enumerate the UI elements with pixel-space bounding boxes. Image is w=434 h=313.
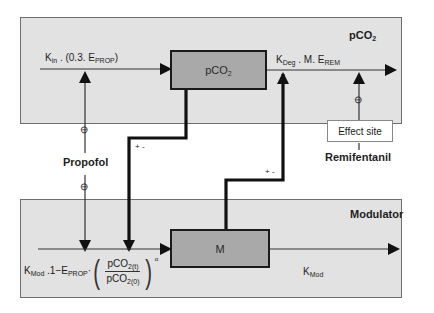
- propofol-inhibit-bottom-icon: ⊖: [80, 181, 88, 192]
- kin-flow-label: Kin . (0.3. EPROP): [45, 52, 118, 64]
- propofol-inhibit-top-icon: ⊖: [80, 124, 88, 135]
- effect-site-box: Effect site: [327, 120, 393, 142]
- feedback-sign-left: + -: [135, 142, 145, 151]
- pco2-box: pCO2: [170, 50, 267, 90]
- modulator-box: M: [170, 229, 270, 268]
- remifentanil-label: Remifentanil: [325, 151, 391, 163]
- pco2-box-label: pCO2: [205, 64, 232, 77]
- feedback-sign-right: + -: [265, 167, 275, 176]
- modulator-panel-title: Modulator: [350, 208, 403, 220]
- kdeg-flow-label: KDeg . M. EREM: [276, 54, 340, 66]
- kmod-input-formula: KMod .1−EPROP· ( pCO2(t) pCO2(0) ) α: [24, 254, 158, 288]
- modulator-box-label: M: [215, 243, 224, 255]
- pco2-panel-title: pCO2: [349, 29, 376, 42]
- propofol-label: Propofol: [63, 156, 108, 168]
- remifentanil-inhibit-icon: ⊖: [354, 94, 362, 105]
- kmod-output-label: KMod: [303, 266, 323, 278]
